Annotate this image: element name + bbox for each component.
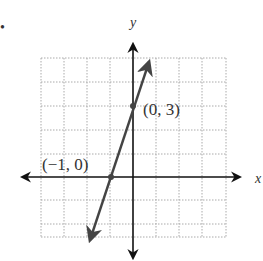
point-label-neg1-0: (−1, 0) [42, 155, 88, 174]
y-axis-label: y [128, 15, 137, 30]
point-label-0-3: (0, 3) [143, 100, 180, 119]
graph-line [90, 62, 149, 240]
coordinate-plane: • y x (0, 3) (−1, 0) [0, 0, 263, 261]
bullet: • [0, 20, 5, 35]
x-axis-label: x [254, 171, 262, 186]
point-0-3 [130, 103, 136, 109]
point-neg1-0 [108, 174, 114, 180]
